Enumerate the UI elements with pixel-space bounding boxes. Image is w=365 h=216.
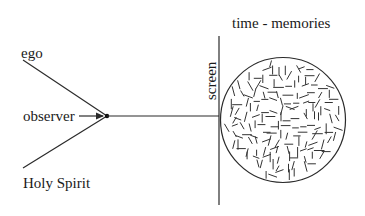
ego-label: ego [21,45,43,61]
holy-spirit-label: Holy Spirit [23,175,91,191]
screen-label: screen [203,61,219,100]
observer-label: observer [23,108,75,124]
memories-circle [221,58,346,183]
time-memories-label: time - memories [232,15,330,31]
memories-texture [224,61,342,181]
observer-diagram: ego observer Holy Spirit time - memories… [0,0,365,216]
